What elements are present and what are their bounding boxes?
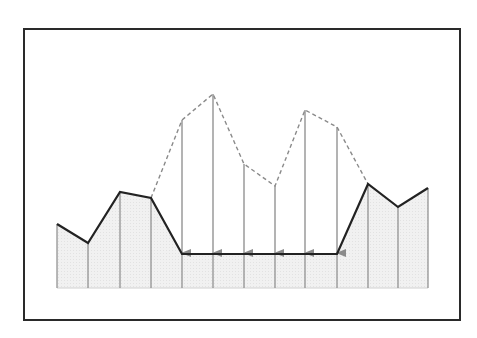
terrain-diagram <box>0 0 477 338</box>
